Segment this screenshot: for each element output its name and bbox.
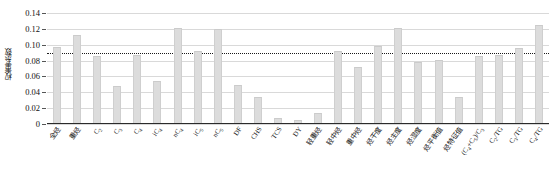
- bar: [234, 85, 242, 123]
- x-axis-tick-label: iC5: [192, 126, 203, 138]
- bar-slot: [208, 12, 228, 123]
- x-axis-tick-label: DF: [233, 126, 244, 137]
- bar-slot: [288, 12, 308, 123]
- x-axis-tick-label: 重中烃: [346, 126, 364, 147]
- bar: [113, 86, 121, 123]
- bar: [515, 48, 523, 123]
- x-label-slot: 重烃: [67, 126, 87, 172]
- y-axis-tick: [42, 108, 46, 109]
- x-axis-line: [47, 123, 549, 124]
- x-axis-tick-label: C3/TG: [508, 126, 524, 145]
- bar-slot: [228, 12, 248, 123]
- y-axis-tick-label: 0.04: [25, 87, 40, 97]
- x-axis-tick-label: C4: [133, 126, 143, 136]
- bar: [495, 55, 503, 123]
- x-axis-tick-label: iC4: [152, 126, 163, 138]
- x-label-slot: C4: [127, 126, 147, 172]
- x-label-slot: (C4+C5)/C3: [469, 126, 489, 172]
- bar-slot: [509, 12, 529, 123]
- x-label-slot: DF: [228, 126, 248, 172]
- bar-slot: [469, 12, 489, 123]
- x-label-slot: iC4: [147, 126, 167, 172]
- bar-slot: [147, 12, 167, 123]
- gridline: [47, 124, 549, 125]
- bar: [374, 46, 382, 123]
- weight-coefficient-bar-chart: 权重系数 0.140.120.100.080.060.040.020 全烃重烃C…: [0, 0, 556, 173]
- x-label-slot: C3/TG: [509, 126, 529, 172]
- y-axis-tick-label: 0.12: [25, 24, 40, 34]
- x-axis-tick-label: C2/TG: [488, 126, 504, 145]
- x-axis-tick-label: C4/TG: [528, 126, 544, 145]
- bar-slot: [388, 12, 408, 123]
- x-label-slot: 全烃: [47, 126, 67, 172]
- x-label-slot: 烃干度: [368, 126, 388, 172]
- y-axis-tick-label: 0.14: [25, 8, 40, 18]
- bar: [254, 97, 262, 123]
- bar: [314, 113, 322, 124]
- x-axis-tick-label: nC5: [211, 126, 223, 139]
- x-label-slot: 重中烃: [348, 126, 368, 172]
- bar-slot: [408, 12, 428, 123]
- bar-slot: [428, 12, 448, 123]
- bar-slot: [127, 12, 147, 123]
- y-axis-title: 权重系数: [2, 18, 16, 110]
- bar-slot: [368, 12, 388, 123]
- x-axis-tick-label: C2: [93, 126, 103, 136]
- x-axis-tick-label: 重烃: [69, 126, 83, 141]
- x-axis-tick-label: TCS: [271, 126, 284, 141]
- x-axis-tick-label: 烃主度: [386, 126, 404, 147]
- x-axis-tick-label: C3: [113, 126, 123, 136]
- y-axis-tick-label: 0.02: [25, 103, 40, 113]
- x-label-slot: nC4: [167, 126, 187, 172]
- x-axis-tick-label: nC4: [171, 126, 183, 139]
- x-label-slot: 轻中烃: [328, 126, 348, 172]
- bar-slot: [268, 12, 288, 123]
- x-axis-tick-label: 全烃: [49, 126, 63, 141]
- bar: [334, 51, 342, 123]
- x-label-slot: C2: [87, 126, 107, 172]
- x-label-slot: DY: [288, 126, 308, 172]
- bar: [174, 28, 182, 123]
- bar-slot: [107, 12, 127, 123]
- x-label-slot: CHS: [248, 126, 268, 172]
- x-label-slot: C3: [107, 126, 127, 172]
- bar-slot: [529, 12, 549, 123]
- bar: [153, 81, 161, 123]
- y-axis-tick: [42, 29, 46, 30]
- bar: [93, 56, 101, 123]
- y-axis-tick: [42, 61, 46, 62]
- bar: [394, 28, 402, 123]
- y-axis-tick-label: 0.06: [25, 71, 40, 81]
- bar-slot: [167, 12, 187, 123]
- x-label-slot: C2/TG: [489, 126, 509, 172]
- bar-slot: [449, 12, 469, 123]
- x-axis-tick-label: 烃湿度: [406, 126, 424, 147]
- bar-slot: [87, 12, 107, 123]
- y-axis-tick-label: 0.08: [25, 56, 40, 66]
- bar-slot: [308, 12, 328, 123]
- bar-slot: [328, 12, 348, 123]
- y-axis-tick-label: 0.10: [25, 40, 40, 50]
- y-axis-tick: [42, 92, 46, 93]
- bar: [354, 67, 362, 123]
- bar-series: [47, 12, 549, 123]
- bar: [133, 55, 141, 123]
- bar-slot: [489, 12, 509, 123]
- bar-slot: [67, 12, 87, 123]
- plot-area: 0.140.120.100.080.060.040.020: [47, 12, 549, 124]
- bar: [455, 97, 463, 123]
- y-axis-tick-label: 0: [36, 119, 40, 129]
- bar-slot: [188, 12, 208, 123]
- y-axis-tick: [42, 76, 46, 77]
- x-label-slot: 烃主度: [388, 126, 408, 172]
- x-label-slot: C4/TG: [529, 126, 549, 172]
- bar: [435, 60, 443, 123]
- bar: [73, 35, 81, 123]
- x-axis-tick-label: CHS: [250, 126, 264, 141]
- bar: [475, 56, 483, 123]
- x-axis-tick-label: 烃干度: [366, 126, 384, 147]
- x-axis-tick-label: 轻重烃: [306, 126, 324, 147]
- x-label-slot: 轻重烃: [308, 126, 328, 172]
- x-axis-tick-label: DY: [292, 126, 304, 138]
- x-label-slot: iC5: [188, 126, 208, 172]
